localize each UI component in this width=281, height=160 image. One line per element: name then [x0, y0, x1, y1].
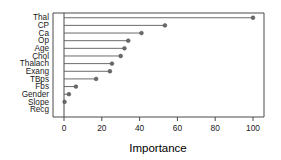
data-point — [163, 23, 167, 27]
x-axis-tick-label: 0 — [62, 123, 67, 133]
data-point — [140, 31, 144, 35]
x-axis-tick-label: 20 — [97, 123, 107, 133]
data-point — [74, 85, 78, 89]
data-point — [63, 100, 67, 104]
x-axis-ticks-group: 020406080100 — [62, 117, 261, 133]
data-point — [108, 69, 112, 73]
stem-lines-group — [64, 18, 253, 110]
data-points-group — [63, 16, 255, 104]
plot-border — [53, 13, 264, 117]
y-axis-labels-group: ThalCPCaOpAgeCholThalachExangTBpsFbsGend… — [20, 13, 50, 114]
data-point — [123, 46, 127, 50]
data-point — [119, 54, 123, 58]
importance-dotchart: ThalCPCaOpAgeCholThalachExangTBpsFbsGend… — [0, 0, 281, 160]
data-point — [110, 62, 114, 66]
data-point — [251, 16, 255, 20]
chart-canvas: ThalCPCaOpAgeCholThalachExangTBpsFbsGend… — [0, 0, 281, 160]
data-point — [126, 39, 130, 43]
data-point — [67, 92, 71, 96]
y-axis-tick-label: Recg — [30, 105, 50, 114]
plot-frame — [53, 13, 264, 117]
x-axis-title: Importance — [129, 142, 187, 154]
data-point — [94, 77, 98, 81]
x-axis-tick-label: 100 — [246, 123, 260, 133]
x-axis-tick-label: 80 — [211, 123, 221, 133]
x-axis-tick-label: 40 — [135, 123, 145, 133]
x-axis-tick-label: 60 — [173, 123, 183, 133]
